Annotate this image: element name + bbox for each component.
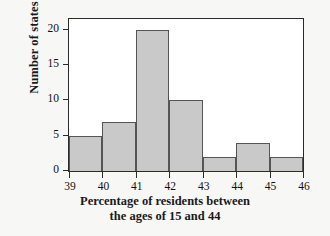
x-axis-tick-label: 45 xyxy=(265,180,277,192)
y-axis-tick-label: 5 xyxy=(53,128,59,140)
x-axis-tick-label: 42 xyxy=(165,180,177,192)
x-axis-tick-label: 46 xyxy=(298,180,310,192)
histogram-bar xyxy=(270,157,303,171)
y-axis-tick: 10 xyxy=(63,99,69,100)
x-axis-title-line2: the ages of 15 and 44 xyxy=(0,209,330,224)
x-axis-tick: 43 xyxy=(203,171,204,178)
x-axis-tick: 44 xyxy=(236,171,237,178)
plot-area: 051015203940414243444546 xyxy=(68,18,304,172)
y-axis-tick: 20 xyxy=(63,29,69,30)
histogram-bar xyxy=(236,143,269,171)
y-axis-tick-label: 15 xyxy=(48,57,60,69)
x-axis-title-line1: Percentage of residents between xyxy=(80,194,250,208)
histogram-bar xyxy=(203,157,236,171)
histogram-bar xyxy=(102,122,135,171)
x-axis-tick: 42 xyxy=(169,171,170,178)
histogram-bar xyxy=(136,30,169,171)
x-axis-tick-label: 41 xyxy=(131,180,143,192)
x-axis-tick: 39 xyxy=(69,171,70,178)
histogram-figure: Number of states 05101520394041424344454… xyxy=(0,0,330,236)
x-axis-tick: 45 xyxy=(270,171,271,178)
x-axis-tick: 46 xyxy=(303,171,304,178)
y-axis-tick-label: 20 xyxy=(48,22,60,34)
bar-series xyxy=(69,19,303,171)
x-axis-tick: 41 xyxy=(136,171,137,178)
x-axis-tick-label: 39 xyxy=(64,180,76,192)
y-axis-tick: 5 xyxy=(63,135,69,136)
x-axis-tick-label: 40 xyxy=(98,180,110,192)
histogram-bar xyxy=(69,136,102,171)
x-axis-tick: 40 xyxy=(102,171,103,178)
x-axis-tick-label: 43 xyxy=(198,180,210,192)
x-axis-title: Percentage of residents between the ages… xyxy=(0,194,330,224)
y-axis-tick-label: 10 xyxy=(48,92,60,104)
y-axis-tick: 15 xyxy=(63,64,69,65)
x-axis-tick-label: 44 xyxy=(231,180,243,192)
y-axis-tick-label: 0 xyxy=(53,163,59,175)
histogram-bar xyxy=(169,100,202,171)
y-axis-title: Number of states xyxy=(27,0,42,128)
